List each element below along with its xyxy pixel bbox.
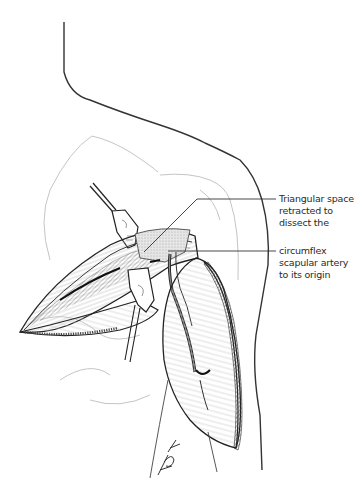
label-circumflex-artery: circumflex scapular artery to its origin <box>279 245 348 281</box>
scapular-flap <box>163 258 242 450</box>
artist-signature <box>158 440 180 475</box>
label-triangular-space: Triangular space retracted to dissect th… <box>279 193 354 229</box>
